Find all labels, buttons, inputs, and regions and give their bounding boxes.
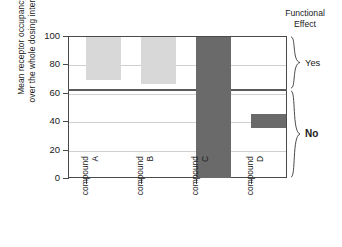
y-tick-label-0: 0 [34, 173, 60, 183]
legend-label-no: No [305, 129, 318, 138]
x-axis-label-compound-a: compound A [80, 156, 100, 242]
x-axis-label-compound-b: compound B [135, 156, 155, 242]
x-axis-label-compound-d: compound D [245, 156, 265, 242]
y-tick-label-40: 40 [34, 116, 60, 126]
y-tick-label-80: 80 [34, 59, 60, 69]
x-axis-label-compound-c: compound C [190, 156, 210, 242]
y-tick-label-20: 20 [34, 145, 60, 155]
legend-label-yes: Yes [305, 58, 320, 67]
y-tick-label-60: 60 [34, 88, 60, 98]
chart-figure: Mean receptor occupancy over the whole d… [0, 0, 342, 247]
gridline-20 [69, 151, 286, 152]
threshold-line [68, 89, 287, 91]
bar-compound-b [141, 37, 176, 84]
bar-compound-d [251, 114, 286, 128]
brace-yes-icon [289, 36, 302, 89]
gridline-60 [69, 94, 286, 95]
y-tick-label-100: 100 [34, 31, 60, 41]
bar-compound-a [86, 37, 121, 80]
functional-effect-header: Functional Effect [268, 8, 342, 30]
brace-no-icon [289, 90, 302, 178]
